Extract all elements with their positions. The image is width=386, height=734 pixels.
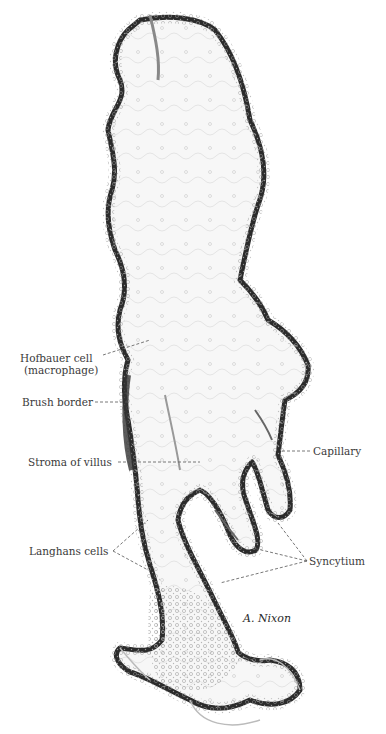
- label-syncytium: Syncytium: [309, 555, 365, 567]
- label-hofbauer-line1: Hofbauer cell: [20, 352, 98, 364]
- leader-syncytium-2: [253, 548, 307, 561]
- label-brush-border: Brush border: [22, 396, 93, 408]
- label-langhans-cells: Langhans cells: [29, 545, 108, 557]
- leader-syncytium-3: [220, 561, 307, 583]
- label-hofbauer-line2: (macrophage): [20, 364, 98, 376]
- label-capillary: Capillary: [313, 445, 361, 457]
- label-stroma-of-villus: Stroma of villus: [28, 456, 112, 468]
- artist-signature: A. Nixon: [243, 612, 291, 625]
- label-hofbauer-cell: Hofbauer cell (macrophage): [20, 352, 98, 376]
